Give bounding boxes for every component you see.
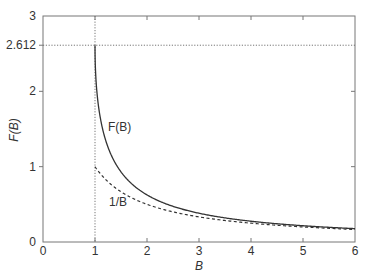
- y-tick-label: 0: [29, 235, 36, 249]
- series-group: [95, 45, 355, 229]
- tick-labels: 012345601232.612: [6, 9, 359, 258]
- series-line-inv-b: [95, 167, 355, 230]
- x-tick-label: 0: [40, 244, 47, 258]
- y-tick-label-extra: 2.612: [6, 38, 36, 52]
- plot-frame: [43, 16, 355, 242]
- x-tick-label: 3: [196, 244, 203, 258]
- x-tick-label: 4: [248, 244, 255, 258]
- ticks: [39, 16, 355, 242]
- chart: 012345601232.612 B F(B) F(B) 1/B: [0, 0, 369, 278]
- series-line-fb: [95, 45, 355, 228]
- x-tick-label: 2: [144, 244, 151, 258]
- y-tick-label: 1: [29, 160, 36, 174]
- x-tick-label: 5: [300, 244, 307, 258]
- series-label-inv-b: 1/B: [109, 195, 127, 209]
- y-axis-label: F(B): [7, 118, 21, 141]
- x-tick-label: 1: [92, 244, 99, 258]
- reference-lines: [43, 16, 355, 242]
- series-label-fb: F(B): [108, 120, 131, 134]
- x-axis-label: B: [195, 259, 203, 273]
- y-tick-label: 2: [29, 84, 36, 98]
- y-tick-label: 3: [29, 9, 36, 23]
- plot-border: [43, 16, 355, 242]
- x-tick-label: 6: [352, 244, 359, 258]
